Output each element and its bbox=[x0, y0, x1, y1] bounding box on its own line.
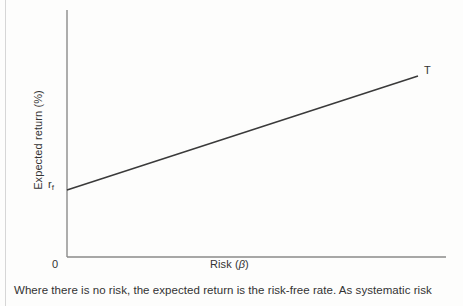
line-endpoint-label-t: T bbox=[424, 64, 431, 76]
figure-caption: Where there is no risk, the expected ret… bbox=[14, 283, 454, 297]
risk-free-rate-label: rf bbox=[48, 178, 54, 192]
risk-free-rate-label-subscript: f bbox=[52, 183, 54, 192]
x-axis-title: Risk (β) bbox=[210, 258, 249, 270]
x-axis-title-suffix: ) bbox=[245, 258, 249, 270]
figure-security-market-line: Expected return (%) Risk (β) 0 rf T bbox=[0, 0, 463, 276]
x-axis-title-prefix: Risk ( bbox=[210, 258, 239, 270]
y-axis-title: Expected return (%) bbox=[32, 80, 44, 200]
chart-plot-area bbox=[0, 0, 463, 276]
security-market-line bbox=[67, 76, 418, 190]
origin-label: 0 bbox=[52, 258, 58, 270]
